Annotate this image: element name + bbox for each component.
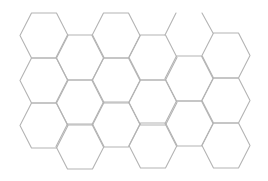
hexagon-cell — [56, 124, 104, 169]
hex-grid-diagram — [0, 0, 268, 181]
hexagon-cell — [20, 58, 68, 103]
hexagon-cell — [20, 103, 68, 148]
hexagon-cell — [129, 123, 177, 168]
hexagon-cell — [20, 13, 68, 58]
hexagon-cell — [56, 35, 104, 80]
partial-hex-edge — [202, 13, 213, 33]
hexagon-cell — [56, 80, 104, 125]
partial-hex-edge — [165, 13, 176, 35]
hex-grid-svg — [0, 0, 268, 181]
